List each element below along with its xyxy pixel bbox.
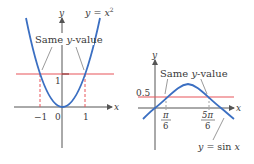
left-pointer-2: [76, 47, 84, 70]
left-tick-y-1: 1: [55, 76, 61, 86]
left-pointer-1: [42, 47, 52, 70]
figure: Same y-value y x y = x2 1 −1 0 1 Same y-…: [0, 0, 254, 164]
left-x-label: x: [114, 102, 119, 112]
right-curve-pointer: [213, 118, 224, 140]
right-tick-5pi6-den: 6: [205, 121, 210, 131]
right-tick-y-05: 0.5: [136, 88, 151, 98]
sine-curve: [143, 84, 234, 119]
left-graph: Same y-value y x y = x2 1 −1 0 1: [14, 6, 119, 148]
left-tick-x-1: 1: [83, 112, 89, 122]
sine-label: y = sin x: [197, 141, 240, 152]
parabola-label: y = x2: [84, 6, 114, 18]
right-annotation: Same y-value: [160, 68, 228, 79]
right-tick-pi6-den: 6: [163, 121, 168, 131]
right-tick-5pi6-num: 5π: [202, 110, 213, 120]
right-x-label: x: [236, 103, 241, 113]
parabola-curve: [26, 18, 100, 107]
right-graph: Same y-value y x 0.5 π 6 5π 6 y = sin x: [136, 50, 241, 152]
left-y-label: y: [58, 8, 65, 18]
left-tick-x-neg1: −1: [34, 112, 47, 122]
left-annotation: Same y-value: [35, 34, 103, 45]
right-y-label: y: [151, 50, 158, 60]
right-pointer-1: [165, 77, 168, 94]
right-tick-pi6-num: π: [162, 110, 169, 120]
left-tick-x-0: 0: [55, 112, 61, 122]
